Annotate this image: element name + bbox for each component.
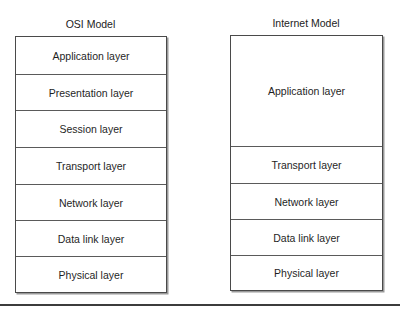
bottom-divider-rule bbox=[0, 304, 400, 306]
osi-presentation-layer: Presentation layer bbox=[16, 74, 166, 110]
osi-application-layer: Application layer bbox=[16, 37, 166, 74]
osi-physical-layer: Physical layer bbox=[16, 256, 166, 292]
osi-transport-layer: Transport layer bbox=[16, 147, 166, 184]
osi-session-layer: Session layer bbox=[16, 110, 166, 147]
internet-network-layer: Network layer bbox=[231, 183, 382, 219]
osi-model-title: OSI Model bbox=[15, 18, 166, 30]
osi-network-layer: Network layer bbox=[16, 184, 166, 220]
internet-layer-stack: Application layer Transport layer Networ… bbox=[230, 35, 383, 291]
internet-physical-layer: Physical layer bbox=[231, 255, 382, 290]
internet-transport-layer: Transport layer bbox=[231, 146, 382, 183]
internet-application-layer: Application layer bbox=[231, 36, 382, 146]
internet-model-title: Internet Model bbox=[230, 17, 382, 29]
osi-data-link-layer: Data link layer bbox=[16, 220, 166, 256]
osi-layer-stack: Application layer Presentation layer Ses… bbox=[15, 36, 167, 293]
internet-data-link-layer: Data link layer bbox=[231, 219, 382, 255]
